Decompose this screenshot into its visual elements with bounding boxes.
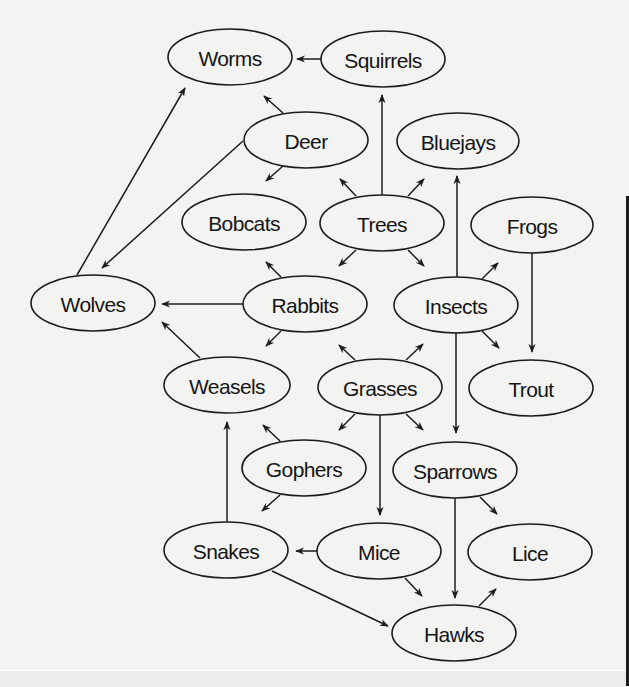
arrow-wolves-to-worms xyxy=(77,88,185,275)
node-label: Deer xyxy=(284,130,328,153)
arrow-line xyxy=(77,88,185,275)
arrow-insects-to-frogs xyxy=(482,263,498,279)
arrow-line xyxy=(406,344,423,360)
arrow-mice-to-hawks xyxy=(405,578,422,596)
node-weasels: Weasels xyxy=(164,357,290,413)
node-label: Snakes xyxy=(193,540,260,563)
arrow-line xyxy=(405,578,422,596)
arrow-line xyxy=(482,331,499,348)
arrow-line xyxy=(263,425,280,441)
node-label: Trout xyxy=(508,378,554,401)
node-label: Rabbits xyxy=(271,294,338,317)
arrow-line xyxy=(266,262,281,277)
arrow-trees-to-bluejays xyxy=(408,179,424,196)
arrow-trees-to-deer xyxy=(340,179,356,196)
arrow-rabbits-to-bobcats xyxy=(266,262,281,277)
arrow-line xyxy=(266,331,281,346)
arrow-grasses-to-gophers xyxy=(339,414,355,430)
arrow-deer-to-bobcats xyxy=(266,166,283,181)
arrow-hawks-to-lice xyxy=(479,589,496,606)
node-label: Wolves xyxy=(61,293,126,316)
arrow-gophers-to-snakes xyxy=(262,495,280,511)
arrow-line xyxy=(408,179,424,196)
node-frogs: Frogs xyxy=(471,197,593,253)
arrow-trees-to-insects xyxy=(408,250,424,266)
node-label: Worms xyxy=(198,47,261,70)
arrow-line xyxy=(339,414,355,430)
arrow-line xyxy=(339,250,356,266)
arrow-grasses-to-rabbits xyxy=(339,345,355,360)
arrow-line xyxy=(340,179,356,196)
node-label: Squirrels xyxy=(344,49,422,72)
node-label: Trees xyxy=(357,213,407,236)
node-trees: Trees xyxy=(320,195,444,251)
node-hawks: Hawks xyxy=(392,605,516,661)
arrow-gophers-to-weasels xyxy=(263,425,280,441)
node-worms: Worms xyxy=(168,29,292,85)
node-bluejays: Bluejays xyxy=(397,113,519,169)
arrow-line xyxy=(406,414,423,430)
node-label: Frogs xyxy=(507,215,558,238)
node-label: Hawks xyxy=(424,623,484,646)
arrow-line xyxy=(339,345,355,360)
node-insects: Insects xyxy=(394,277,518,333)
arrow-weasels-to-wolves xyxy=(162,322,200,358)
node-mice: Mice xyxy=(317,523,441,579)
arrow-line xyxy=(479,589,496,606)
node-label: Lice xyxy=(512,542,548,565)
arrow-line xyxy=(408,250,424,266)
arrow-deer-to-worms xyxy=(264,96,283,113)
arrow-sparrows-to-lice xyxy=(480,497,497,514)
node-label: Weasels xyxy=(189,375,265,398)
arrow-line xyxy=(266,166,283,181)
arrow-line xyxy=(162,322,200,358)
arrow-rabbits-to-weasels xyxy=(266,331,281,346)
node-snakes: Snakes xyxy=(164,522,288,578)
nodes-group: WormsSquirrelsDeerBluejaysBobcatsTreesFr… xyxy=(31,29,593,661)
node-label: Sparrows xyxy=(413,460,497,483)
arrow-line xyxy=(482,263,498,279)
arrow-grasses-to-insects xyxy=(406,344,423,360)
node-label: Gophers xyxy=(266,458,342,481)
node-gophers: Gophers xyxy=(242,440,366,496)
node-grasses: Grasses xyxy=(318,359,442,415)
node-label: Grasses xyxy=(343,377,417,400)
arrow-line xyxy=(264,96,283,113)
arrow-line xyxy=(480,497,497,514)
node-label: Insects xyxy=(425,295,487,318)
node-bobcats: Bobcats xyxy=(182,194,306,250)
node-deer: Deer xyxy=(244,112,368,168)
node-wolves: Wolves xyxy=(31,275,155,331)
node-squirrels: Squirrels xyxy=(321,31,445,87)
node-lice: Lice xyxy=(468,524,592,580)
arrow-trees-to-rabbits xyxy=(339,250,356,266)
arrow-insects-to-trout xyxy=(482,331,499,348)
node-sparrows: Sparrows xyxy=(393,442,517,498)
node-trout: Trout xyxy=(469,360,593,416)
node-label: Bobcats xyxy=(208,212,280,235)
arrow-grasses-to-sparrows xyxy=(406,414,423,430)
node-label: Bluejays xyxy=(421,131,496,154)
node-rabbits: Rabbits xyxy=(243,276,367,332)
node-label: Mice xyxy=(358,541,400,564)
arrow-line xyxy=(262,495,280,511)
